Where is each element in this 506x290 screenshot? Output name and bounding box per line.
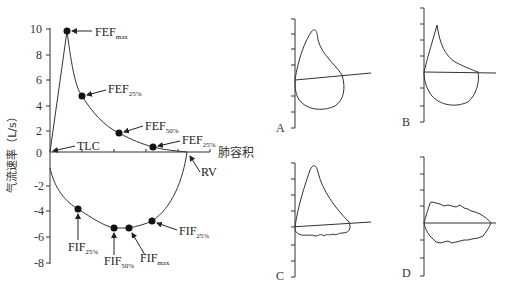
panel-b-baseline bbox=[424, 72, 496, 73]
label-fif75: FIF25% bbox=[179, 224, 209, 240]
y-ticks bbox=[46, 29, 50, 263]
y-tick-labels: 10 8 6 4 2 0 -2 -4 -6 -8 bbox=[30, 22, 44, 270]
inspiratory-curve bbox=[50, 152, 187, 228]
label-tlc: TLC bbox=[77, 139, 100, 153]
panel-c: C bbox=[276, 163, 371, 283]
x-axis-label: 肺容积 bbox=[218, 145, 254, 160]
label-fef75: FEF25% bbox=[182, 133, 216, 149]
figure: 10 8 6 4 2 0 -2 -4 -6 -8 气流速率（L/s） 肺容积 bbox=[0, 0, 506, 290]
point-fif25 bbox=[75, 206, 82, 213]
y-tick-neg8: -8 bbox=[34, 256, 44, 270]
point-fef50 bbox=[116, 130, 123, 137]
y-tick-neg4: -4 bbox=[34, 204, 44, 218]
y-tick-neg2: -2 bbox=[34, 179, 44, 193]
label-fef25: FEF25% bbox=[108, 82, 142, 98]
y-tick-neg6: -6 bbox=[34, 230, 44, 244]
y-tick-0: 0 bbox=[36, 146, 42, 160]
panel-label-a: A bbox=[276, 121, 285, 135]
label-fif50: FIF50% bbox=[104, 254, 134, 270]
panel-b: B bbox=[402, 8, 496, 129]
data-points bbox=[64, 28, 157, 232]
point-fef25 bbox=[79, 93, 86, 100]
panel-label-b: B bbox=[402, 115, 410, 129]
point-fifmax bbox=[126, 225, 133, 232]
panel-a: A bbox=[276, 19, 371, 135]
label-fef50: FEF50% bbox=[145, 119, 179, 135]
panel-b-loop bbox=[424, 25, 479, 105]
annotation-arrows bbox=[53, 31, 200, 255]
y-tick-8: 8 bbox=[36, 48, 42, 62]
point-fef-max bbox=[64, 28, 71, 35]
label-fifmax: FIFmax bbox=[140, 251, 170, 267]
panel-d: D bbox=[402, 157, 496, 280]
point-fif50 bbox=[111, 225, 118, 232]
panel-label-c: C bbox=[276, 269, 284, 283]
panel-a-baseline bbox=[295, 73, 371, 80]
y-axis-label: 气流速率（L/s） bbox=[5, 111, 19, 193]
y-tick-4: 4 bbox=[36, 99, 42, 113]
panel-label-d: D bbox=[402, 266, 411, 280]
panel-c-baseline bbox=[291, 222, 371, 227]
y-tick-6: 6 bbox=[36, 73, 42, 87]
panel-a-loop bbox=[295, 30, 344, 110]
label-fif25: FIF25% bbox=[68, 240, 98, 256]
y-tick-10: 10 bbox=[30, 22, 42, 36]
label-rv: RV bbox=[201, 165, 217, 179]
point-fef75 bbox=[150, 144, 157, 151]
y-tick-2: 2 bbox=[36, 124, 42, 138]
label-fef-max: FEFmax bbox=[95, 25, 128, 41]
main-flow-volume-chart: 10 8 6 4 2 0 -2 -4 -6 -8 气流速率（L/s） 肺容积 bbox=[5, 22, 254, 270]
point-fif75 bbox=[149, 218, 156, 225]
